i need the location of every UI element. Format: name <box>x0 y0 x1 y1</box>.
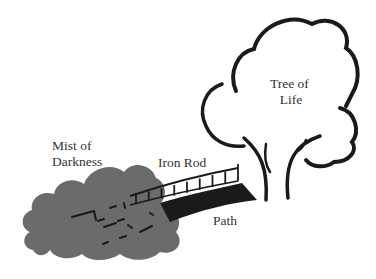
mist-cloud <box>23 165 180 260</box>
mist-label: Mist of Darkness <box>52 138 102 169</box>
tree-label-line-1: Tree of <box>270 76 309 91</box>
iron-rod-label: Iron Rod <box>158 155 207 170</box>
mist-label-line-2: Darkness <box>52 154 102 169</box>
path-label: Path <box>213 213 237 228</box>
tree-branch-left-inner <box>265 144 270 172</box>
tree-label: Tree of Life <box>270 76 312 107</box>
tree-label-line-2: Life <box>280 92 303 107</box>
mist-label-line-1: Mist of <box>52 138 92 153</box>
rod-fragment <box>124 203 125 208</box>
iron-rod-diagram: Tree of Life Mist of Darkness Iron Rod P… <box>0 0 376 279</box>
tree-canopy-left <box>203 84 244 146</box>
